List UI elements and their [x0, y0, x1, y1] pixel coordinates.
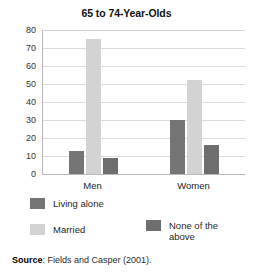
legend-item: None of the above [146, 220, 218, 242]
bar [170, 120, 185, 174]
legend-swatch-icon [146, 220, 161, 231]
source-label: Source [12, 255, 43, 265]
x-axis: MenWomen [42, 178, 245, 194]
y-tick-label: 50 [0, 80, 36, 89]
bar [103, 158, 118, 174]
legend-item: Married [30, 224, 85, 235]
y-tick-label: 80 [0, 26, 36, 35]
source-note: Source: Fields and Casper (2001). [12, 255, 152, 265]
plot-area [42, 30, 245, 175]
x-tick-label: Men [83, 180, 101, 191]
x-tick-label: Women [177, 180, 210, 191]
chart-title: 65 to 74-Year-Olds [0, 7, 253, 19]
bar [204, 145, 219, 174]
y-tick-label: 20 [0, 134, 36, 143]
legend-label: None of the above [169, 220, 218, 242]
y-tick-label: 60 [0, 62, 36, 71]
legend-label: Living alone [53, 198, 104, 209]
bar [86, 39, 101, 174]
source-separator: : [43, 255, 46, 265]
legend-swatch-icon [30, 224, 45, 235]
y-tick-label: 10 [0, 152, 36, 161]
chart-plot: 01020304050607080 MenWomen [0, 26, 253, 194]
y-tick-label: 40 [0, 98, 36, 107]
legend-label: Married [53, 224, 85, 235]
legend-swatch-icon [30, 198, 45, 209]
y-axis: 01020304050607080 [0, 26, 40, 178]
y-tick-label: 30 [0, 116, 36, 125]
y-tick-label: 0 [0, 170, 36, 179]
bars-layer [43, 30, 245, 174]
chart-legend: Living aloneMarriedNone of the above [30, 198, 245, 246]
legend-item: Living alone [30, 198, 104, 209]
y-tick-label: 70 [0, 44, 36, 53]
source-text: Fields and Casper (2001). [48, 255, 152, 265]
bar [187, 80, 202, 174]
bar [69, 151, 84, 174]
